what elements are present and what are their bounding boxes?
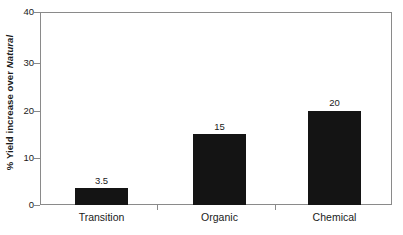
x-tick-mark-1 [157,205,158,210]
x-category-label-chemical: Chemical [313,211,357,223]
y-tick-label-40: 40 [8,7,34,17]
y-tick-label-10: 10 [8,153,34,163]
x-category-label-transition: Transition [79,211,125,223]
y-tick-label-30: 30 [8,58,34,68]
y-axis-title-container: % Yield increase over Natural [0,0,20,205]
y-tick-label-20: 20 [8,106,34,116]
y-tick-label-0: 0 [8,200,34,210]
x-category-label-organic: Organic [201,211,238,223]
bar-organic [193,134,246,205]
bar-chemical [308,111,361,206]
y-tick-mark-0 [34,205,40,206]
y-axis-title: % Yield increase over Natural [5,35,16,170]
x-tick-mark-2 [275,205,276,210]
bar-transition [75,188,128,205]
bar-value-organic: 15 [214,121,225,132]
bar-value-chemical: 20 [329,97,340,108]
bar-chart-figure: % Yield increase over Natural 0 10 20 30… [0,0,403,235]
bar-value-transition: 3.5 [95,175,108,186]
